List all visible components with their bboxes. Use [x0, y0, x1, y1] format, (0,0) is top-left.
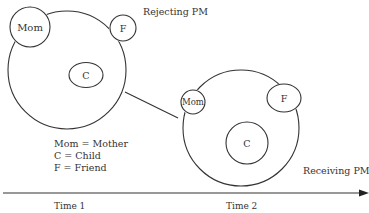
stage-1-child-label: C	[82, 70, 89, 81]
stage-1-title: Rejecting PM	[143, 6, 208, 17]
transition-connector	[125, 92, 178, 118]
timeline-label-time-1: Time 1	[54, 201, 85, 211]
stage-2-friend-label: F	[281, 93, 288, 104]
stage-2-receiving: Mom F C Receiving PM	[180, 70, 369, 186]
family-network-diagram: Mom F C Rejecting PM Mom F C Receiving P…	[0, 0, 369, 213]
stage-2-mother-label: Mom	[182, 97, 204, 107]
stage-2-child-label: C	[243, 138, 250, 149]
timeline-label-time-2: Time 2	[226, 201, 257, 211]
legend-item-friend: F = Friend	[54, 162, 107, 173]
stage-2-title: Receiving PM	[303, 165, 369, 176]
legend-item-child: C = Child	[54, 150, 101, 161]
timeline: Time 1 Time 2	[3, 190, 369, 212]
stage-1-mother-label: Mom	[17, 22, 43, 33]
stage-1-friend-label: F	[120, 23, 127, 34]
stage-1-rejecting: Mom F C Rejecting PM	[8, 6, 208, 129]
timeline-arrowhead-icon	[359, 190, 369, 197]
legend: Mom = Mother C = Child F = Friend	[54, 138, 128, 173]
legend-item-mother: Mom = Mother	[54, 138, 128, 149]
